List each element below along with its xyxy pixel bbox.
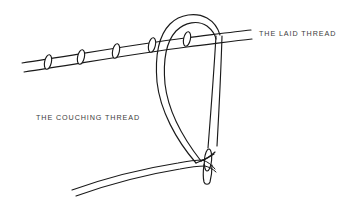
couching-stitch [182, 31, 192, 47]
label-couching-thread: THE COUCHING THREAD [36, 114, 140, 121]
laid-thread [22, 30, 252, 72]
couching-stitch [147, 37, 157, 53]
label-laid-thread: THE LAID THREAD [259, 30, 336, 37]
couching-stitch-figure: THE LAID THREAD THE COUCHING THREAD [0, 0, 348, 208]
couching-stitches [43, 31, 192, 70]
couching-thread-tail [72, 160, 205, 196]
